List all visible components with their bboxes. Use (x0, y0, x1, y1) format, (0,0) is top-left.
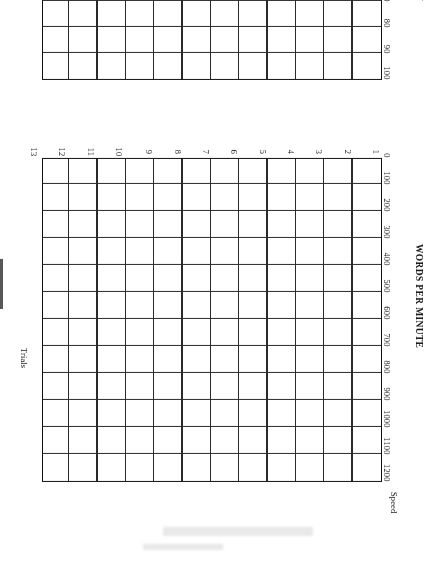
comprehension-chart-gridlines (43, 0, 381, 79)
speed-chart-xtick: 2 (343, 150, 352, 154)
speed-chart-corner-label: Speed (389, 492, 399, 513)
speed-chart-ytick: 500 (383, 263, 392, 293)
speed-chart-ytick: 900 (383, 371, 392, 401)
speed-chart-gridlines (43, 159, 381, 481)
speed-chart: 1200 1100 1000 900 800 700 600 500 400 3… (0, 264, 433, 564)
speed-chart-xtick: 7 (201, 150, 210, 154)
speed-chart-ytick: 1100 (383, 425, 392, 455)
comprehension-chart-ytick: 90 (383, 24, 392, 54)
speed-chart-xtick: 13 (29, 148, 38, 157)
speed-chart-xtick: 1 (371, 150, 380, 154)
comprehension-chart-ytick: 70 (383, 0, 392, 2)
speed-chart-ytick: 400 (383, 236, 392, 266)
speed-chart-ytick: 100 (383, 155, 392, 185)
speed-chart-xtick: 6 (230, 150, 239, 154)
comprehension-chart-y-axis-title: PERCENT OF COMPREHENSION (414, 0, 424, 1)
speed-chart-xtick: 4 (286, 150, 295, 154)
speed-chart-xtick: 3 (315, 150, 324, 154)
comprehension-chart: 100 90 80 70 60 50 40 30 20 10 0 1 2 3 4… (0, 0, 433, 144)
worksheet-page: 1200 1100 1000 900 800 700 600 500 400 3… (0, 0, 433, 564)
comprehension-chart-ytick: 80 (383, 0, 392, 28)
scan-noise-artifact-2 (143, 544, 223, 550)
speed-chart-ytick: 1000 (383, 398, 392, 428)
speed-chart-xtick: 9 (145, 150, 154, 154)
speed-chart-ytick: 200 (383, 182, 392, 212)
comprehension-chart-plot-area[interactable] (42, 0, 382, 80)
speed-chart-ytick: 600 (383, 290, 392, 320)
speed-chart-x-axis-title: Trials (19, 348, 29, 368)
comprehension-chart-ytick: 100 (383, 50, 392, 80)
speed-chart-ytick: 800 (383, 344, 392, 374)
speed-chart-xtick: 11 (86, 148, 95, 157)
scanned-page: 1200 1100 1000 900 800 700 600 500 400 3… (0, 0, 433, 564)
speed-chart-xtick: 5 (258, 150, 267, 154)
scan-edge-artifact (0, 259, 3, 309)
speed-chart-ytick: 1200 (383, 452, 392, 482)
speed-chart-xtick: 12 (57, 148, 66, 157)
speed-chart-ytick: 700 (383, 317, 392, 347)
speed-chart-ytick: 300 (383, 209, 392, 239)
speed-chart-plot-area[interactable] (42, 158, 382, 482)
speed-chart-xtick: 10 (114, 148, 123, 157)
speed-chart-y-axis-title: WORDS PER MINUTE (414, 244, 424, 348)
scan-noise-artifact (163, 527, 313, 536)
speed-chart-xtick: 8 (173, 150, 182, 154)
